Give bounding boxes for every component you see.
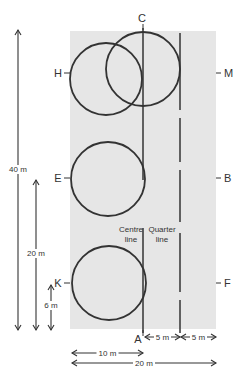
marker-E: E [54, 172, 70, 184]
dimension-40m: 40 m [7, 30, 29, 330]
marker-C: C [138, 12, 146, 30]
dimension-6m: 6 m [43, 285, 60, 330]
quarter-line-label-2: line [156, 235, 169, 244]
dimension-5m-quarter-to-edge: 5 m [181, 332, 216, 342]
dimension-label-5m-a: 5 m [156, 333, 170, 342]
dimension-label-40m: 40 m [9, 165, 27, 174]
marker-letter-F: F [224, 277, 231, 289]
dimension-10m: 10 m [72, 348, 143, 358]
marker-H: H [54, 67, 70, 79]
marker-K: K [54, 277, 70, 289]
marker-letter-K: K [54, 277, 62, 289]
marker-letter-C: C [138, 12, 146, 24]
dimension-5m-centre-to-quarter: 5 m [145, 332, 180, 342]
dimension-20m-horizontal: 20 m [72, 358, 216, 368]
centre-line-label-2: line [125, 235, 138, 244]
marker-B: B [216, 172, 231, 184]
dimension-label-5m-b: 5 m [192, 333, 206, 342]
dimension-label-20m-horizontal: 20 m [135, 359, 153, 368]
marker-F: F [216, 277, 231, 289]
arena-diagram: C A H E K M B F Centre line Quarter line [0, 0, 245, 386]
dimension-label-20m-vertical: 20 m [27, 249, 45, 258]
quarter-line-label-1: Quarter [148, 225, 175, 234]
marker-M: M [216, 67, 233, 79]
marker-A: A [134, 330, 143, 345]
marker-letter-A: A [134, 333, 142, 345]
marker-letter-H: H [54, 67, 62, 79]
dimension-label-6m: 6 m [44, 301, 58, 310]
marker-letter-M: M [224, 67, 233, 79]
centre-line-label-1: Centre [119, 225, 144, 234]
marker-letter-B: B [224, 172, 231, 184]
marker-letter-E: E [54, 172, 61, 184]
dimension-label-10m: 10 m [99, 349, 117, 358]
